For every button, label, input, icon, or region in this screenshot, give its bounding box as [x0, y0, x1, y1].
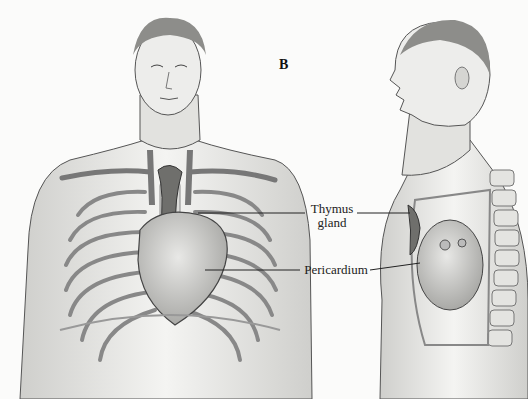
thymus-label-line2: gland [305, 216, 359, 230]
anatomy-illustration: B Thymus gland Pericardium [0, 0, 528, 399]
pericardium-label: Pericardium [301, 263, 371, 277]
anterior-figure [20, 18, 312, 399]
panel-letter: B [279, 57, 288, 73]
anatomy-drawing [0, 0, 528, 399]
lateral-figure [380, 20, 528, 399]
thymus-label-line1: Thymus [305, 202, 359, 216]
thymus-gland-label: Thymus gland [305, 202, 359, 230]
